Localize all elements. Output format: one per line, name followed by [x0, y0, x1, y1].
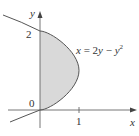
x-axis-arrow-icon	[130, 108, 137, 113]
y-tick-label-2: 2	[26, 28, 32, 40]
equation-label: x = 2y − y2	[75, 43, 124, 56]
y-tick-label-0: 0	[29, 97, 35, 109]
x-axis-label: x	[129, 116, 135, 128]
parabola-diagram: y x 2 0 1 x = 2y − y2	[0, 0, 139, 136]
y-axis-arrow-icon	[38, 11, 43, 18]
shaded-region	[40, 31, 79, 110]
y-axis-label: y	[29, 7, 35, 19]
x-tick-label-1: 1	[76, 115, 82, 127]
